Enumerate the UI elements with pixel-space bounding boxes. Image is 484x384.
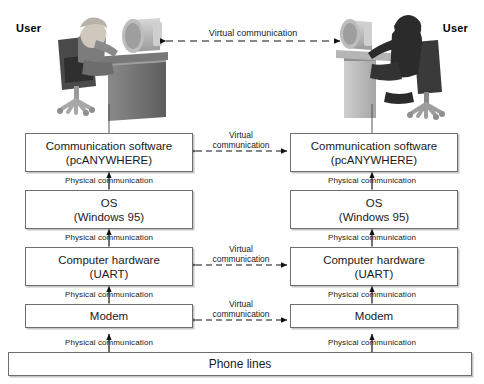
physical-communication-label-right-4: Physical communication: [328, 338, 416, 347]
box-line2: (pcANYWHERE): [331, 153, 417, 167]
virtual-communication-label-software: Virtual communication: [212, 130, 269, 150]
box-computer-hardware-left[interactable]: Computer hardware (UART): [25, 247, 193, 286]
box-line1: Computer hardware: [58, 253, 160, 267]
box-computer-hardware-right[interactable]: Computer hardware (UART): [290, 247, 458, 286]
box-line1: Communication software: [311, 139, 438, 153]
physical-communication-label-right-3: Physical communication: [328, 290, 416, 299]
box-communication-software-right[interactable]: Communication software (pcANYWHERE): [290, 133, 458, 172]
phone-lines-bar[interactable]: Phone lines: [8, 352, 472, 376]
virtual-label-line2: communication: [212, 140, 269, 150]
user-label-right: User: [443, 22, 468, 34]
physical-communication-label-left-4: Physical communication: [65, 338, 153, 347]
box-os-right[interactable]: OS (Windows 95): [290, 190, 458, 229]
user-label-left: User: [16, 22, 41, 34]
virtual-communication-label-modem: Virtual communication: [212, 299, 269, 319]
box-line2: (Windows 95): [74, 210, 144, 224]
box-os-left[interactable]: OS (Windows 95): [25, 190, 193, 229]
virtual-label-line1: Virtual: [212, 244, 269, 254]
phone-lines-label: Phone lines: [209, 357, 272, 371]
physical-communication-label-right-2: Physical communication: [328, 233, 416, 242]
virtual-label-line2: communication: [212, 254, 269, 264]
box-line1: Modem: [355, 309, 393, 323]
box-line1: OS: [366, 196, 383, 210]
box-line2: (UART): [355, 267, 394, 281]
virtual-communication-label-top: Virtual communication: [209, 28, 297, 38]
right-workstation: [336, 15, 445, 120]
physical-communication-label-left-1: Physical communication: [65, 176, 153, 185]
box-modem-left[interactable]: Modem: [25, 304, 193, 328]
virtual-label-line1: Virtual: [212, 299, 269, 309]
physical-communication-label-left-2: Physical communication: [65, 233, 153, 242]
box-line1: OS: [101, 196, 118, 210]
box-modem-right[interactable]: Modem: [290, 304, 458, 328]
box-line2: (UART): [90, 267, 129, 281]
box-line1: Computer hardware: [323, 253, 425, 267]
box-line1: Communication software: [46, 139, 173, 153]
virtual-communication-label-hardware: Virtual communication: [212, 244, 269, 264]
box-line2: (pcANYWHERE): [66, 153, 152, 167]
left-workstation: [57, 17, 168, 121]
network-layer-diagram: User User: [0, 0, 484, 384]
box-line1: Modem: [90, 309, 128, 323]
physical-communication-label-left-3: Physical communication: [65, 290, 153, 299]
box-line2: (Windows 95): [339, 210, 409, 224]
virtual-label-line2: communication: [212, 309, 269, 319]
physical-communication-label-right-1: Physical communication: [328, 176, 416, 185]
virtual-label-line1: Virtual: [212, 130, 269, 140]
box-communication-software-left[interactable]: Communication software (pcANYWHERE): [25, 133, 193, 172]
